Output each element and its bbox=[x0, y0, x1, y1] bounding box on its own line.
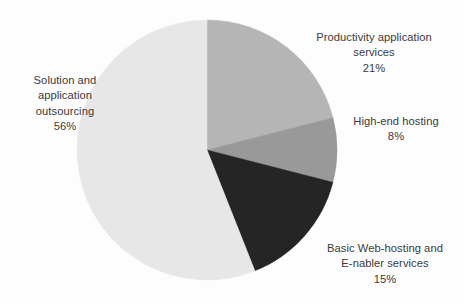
pie-label-solution-outsourcing-percent: 56% bbox=[2, 119, 128, 135]
pie-label-high-end-hosting-text: High-end hosting bbox=[353, 115, 438, 127]
pie-label-high-end-hosting-percent: 8% bbox=[330, 129, 462, 145]
pie-label-high-end-hosting: High-end hosting 8% bbox=[330, 98, 462, 160]
pie-chart-figure: Productivity application services 21% Hi… bbox=[0, 0, 465, 303]
pie-label-productivity-text: Productivity application services bbox=[316, 31, 432, 59]
pie-label-solution-and-application-outsourcing: Solution and application outsourcing 56% bbox=[2, 57, 128, 150]
pie-label-productivity-percent: 21% bbox=[288, 61, 460, 77]
pie-label-productivity-application-services: Productivity application services 21% bbox=[288, 14, 460, 92]
pie-label-basic-web-hosting-and-e-nabler-services: Basic Web-hosting and E-nabler services … bbox=[306, 225, 464, 303]
pie-label-basic-web-hosting-percent: 15% bbox=[306, 272, 464, 288]
pie-label-basic-web-hosting-text: Basic Web-hosting and E-nabler services bbox=[327, 242, 443, 270]
pie-label-solution-outsourcing-text: Solution and application outsourcing bbox=[34, 74, 97, 117]
